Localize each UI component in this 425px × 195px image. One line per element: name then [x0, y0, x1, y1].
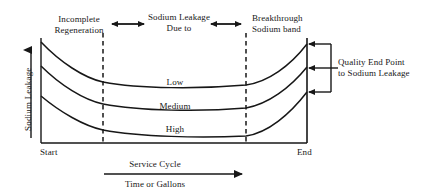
- figure-root: Incomplete Regeneration Sodium Leakage D…: [0, 0, 425, 195]
- curve-high: [41, 92, 307, 137]
- diagram-canvas: [0, 0, 425, 195]
- curve-low: [41, 42, 307, 88]
